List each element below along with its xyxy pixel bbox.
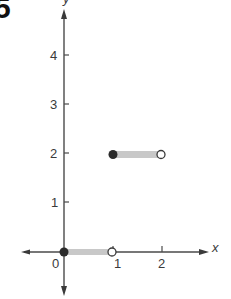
y-tick-1: 1 (51, 195, 58, 210)
y-axis-up-arrow-icon (61, 9, 67, 19)
x-tick-0: 0 (52, 256, 59, 271)
y-axis-label: y (62, 0, 71, 6)
x-tick-2: 2 (158, 256, 165, 271)
chart-svg: 5 y 4 3 2 1 0 1 2 x (0, 0, 231, 299)
open-dot-icon (108, 248, 116, 256)
y-axis-down-arrow-icon (61, 286, 67, 296)
step-function-graph: 5 y 4 3 2 1 0 1 2 x (0, 0, 231, 299)
figure-number: 5 (0, 0, 11, 24)
x-axis-label: x (211, 240, 219, 255)
y-tick-3: 3 (50, 97, 57, 112)
y-tick-4: 4 (50, 48, 57, 63)
y-tick-2: 2 (50, 146, 57, 161)
closed-dot-icon (60, 248, 69, 257)
closed-dot-icon (109, 150, 118, 159)
x-axis-left-arrow-icon (21, 250, 30, 255)
open-dot-icon (157, 151, 165, 159)
x-tick-1: 1 (114, 256, 121, 271)
x-axis-right-arrow-icon (199, 249, 209, 255)
step-segment-2 (109, 150, 166, 159)
step-segment-1 (60, 248, 117, 257)
